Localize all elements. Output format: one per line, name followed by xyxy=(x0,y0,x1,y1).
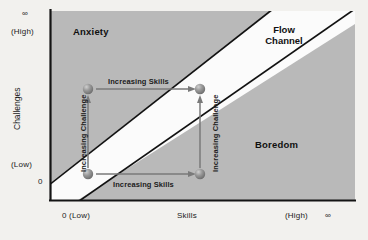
arrow-label-increasing-skills-bottom: Increasing Skills xyxy=(113,180,174,189)
y-axis-zero-label: 0 xyxy=(38,177,43,186)
y-axis-title: Challenges xyxy=(12,87,22,130)
state-low-skill-high-challenge xyxy=(83,84,93,94)
state-high-skill-high-challenge xyxy=(195,84,205,94)
x-axis-infinity-label: ∞ xyxy=(325,211,331,220)
arrow-label-increasing-skills-top: Increasing Skills xyxy=(108,77,169,86)
region-label-boredom: Boredom xyxy=(255,139,298,150)
y-axis-infinity-label: ∞ xyxy=(22,9,28,18)
x-axis-high-label: (High) xyxy=(285,211,308,220)
x-axis-origin-label: 0 (Low) xyxy=(62,211,90,220)
arrow-label-increasing-challenge-left: Increasing Challenge xyxy=(79,95,88,172)
x-axis-title: Skills xyxy=(177,211,197,220)
state-high-skill-low-challenge xyxy=(195,169,205,179)
y-axis-low-label: (Low) xyxy=(11,160,32,169)
region-label-anxiety: Anxiety xyxy=(73,26,109,37)
arrow-label-increasing-challenge-right: Increasing Challenge xyxy=(211,95,220,172)
flow-channel-label-line2: Channel xyxy=(265,35,302,46)
flow-channel-diagram xyxy=(0,0,368,240)
flow-channel-label-line1: Flow xyxy=(273,24,295,35)
y-axis-high-label: (High) xyxy=(11,27,34,36)
